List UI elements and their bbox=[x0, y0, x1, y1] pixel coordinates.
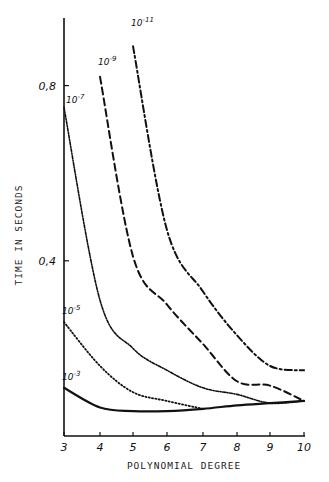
x-axis-title: POLYNOMIAL DEGREE bbox=[127, 460, 241, 471]
y-tick-label: 0,8 bbox=[39, 80, 57, 93]
x-tick-label: 9 bbox=[267, 441, 274, 454]
series-labels: 10-310-510-710-910-11 bbox=[62, 16, 154, 382]
x-tick-label: 8 bbox=[234, 441, 241, 454]
series-line bbox=[64, 108, 304, 404]
series-label: 10-11 bbox=[131, 16, 154, 28]
series-line bbox=[64, 388, 304, 412]
series-label: 10-3 bbox=[62, 370, 80, 382]
x-tick-label: 4 bbox=[97, 441, 104, 454]
y-tick-label: 0,4 bbox=[39, 255, 57, 268]
line-chart: 3456789100,40,8 10-310-510-710-910-11 PO… bbox=[0, 0, 329, 482]
series-line bbox=[64, 322, 203, 409]
x-tick-label: 5 bbox=[130, 441, 137, 454]
x-tick-label: 7 bbox=[200, 441, 207, 454]
series-label: 10-7 bbox=[66, 93, 85, 105]
series-label: 10-9 bbox=[98, 55, 117, 67]
y-axis-title: TIME IN SECONDS bbox=[13, 185, 24, 286]
series-group bbox=[64, 46, 304, 411]
series-line bbox=[100, 77, 304, 401]
series-line bbox=[133, 46, 304, 370]
series-label: 10-5 bbox=[62, 304, 81, 316]
x-tick-label: 10 bbox=[297, 441, 311, 454]
x-tick-label: 6 bbox=[164, 441, 171, 454]
axes: 3456789100,40,8 bbox=[39, 18, 312, 454]
x-tick-label: 3 bbox=[61, 441, 68, 454]
